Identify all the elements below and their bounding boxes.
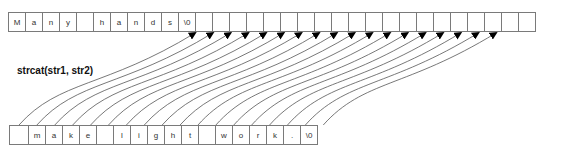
str2-cell: g [147,125,165,145]
str2-cell: . [283,125,301,145]
copy-arrow [305,33,478,125]
str2-cell: e [79,125,97,145]
str2-cell: a [45,125,63,145]
str2-cell [96,125,114,145]
str2-cell: h [164,125,182,145]
str2-cell: l [113,125,131,145]
str2-cell: t [181,125,199,145]
str2-cell: \0 [300,125,318,145]
str2-cell: i [130,125,148,145]
str2-cell: w [215,125,233,145]
copy-arrow [323,33,496,125]
str2-cell: k [62,125,80,145]
str2-array: make light work.\0 [9,125,318,145]
str2-cell: r [249,125,267,145]
str2-cell [198,125,216,145]
str2-cell: o [232,125,250,145]
str2-cell [9,125,29,145]
str2-cell: k [266,125,284,145]
str2-cell: m [28,125,46,145]
